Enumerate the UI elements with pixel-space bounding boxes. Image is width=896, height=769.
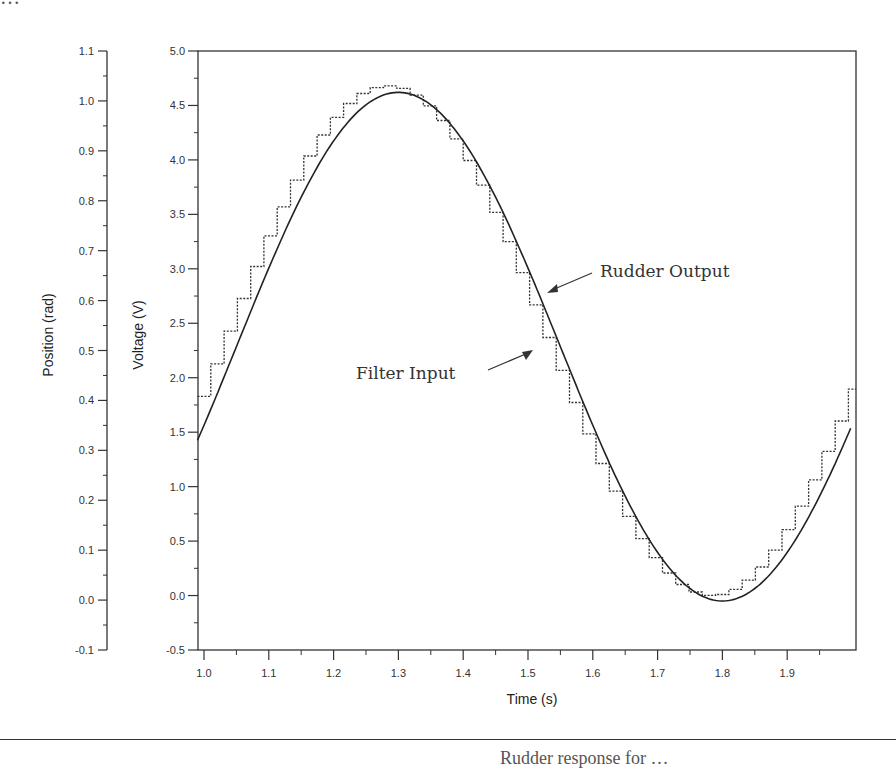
voltage-tick-label: 4.5: [170, 99, 185, 111]
time-tick-label: 1.7: [650, 667, 665, 679]
filter-input-annotation: Filter Input: [356, 350, 533, 383]
position-tick-label: 1.1: [79, 45, 94, 57]
voltage-axis: -0.50.00.51.01.52.02.53.03.54.04.55.0: [166, 45, 198, 656]
position-tick-label: 0.5: [79, 345, 94, 357]
time-axis-title: Time (s): [507, 691, 558, 707]
time-tick-label: 1.5: [520, 667, 535, 679]
voltage-tick-label: 1.0: [170, 481, 185, 493]
position-axis-title: Position (rad): [40, 293, 56, 376]
position-axis: -0.10.00.10.20.30.40.50.60.70.80.91.01.1: [75, 45, 107, 656]
position-tick-label: 1.0: [79, 95, 94, 107]
position-tick-label: -0.1: [75, 644, 94, 656]
position-tick-label: 0.1: [79, 544, 94, 556]
voltage-tick-label: 0.0: [170, 590, 185, 602]
figure-caption-fragment: Rudder response for …: [500, 748, 668, 769]
time-axis: 1.01.11.21.31.41.51.61.71.81.9: [196, 650, 819, 679]
voltage-tick-label: 0.5: [170, 535, 185, 547]
time-tick-label: 1.0: [196, 667, 211, 679]
rudder-output-series: [198, 92, 851, 601]
voltage-tick-label: 3.0: [170, 263, 185, 275]
caption-divider: [0, 739, 896, 740]
voltage-tick-label: 4.0: [170, 154, 185, 166]
time-tick-label: 1.8: [715, 667, 730, 679]
position-tick-label: 0.8: [79, 195, 94, 207]
position-tick-label: 0.2: [79, 494, 94, 506]
arrowhead-icon: [522, 350, 533, 360]
position-tick-label: 0.0: [79, 594, 94, 606]
voltage-tick-label: 5.0: [170, 45, 185, 57]
arrowhead-icon: [547, 284, 558, 293]
time-tick-label: 1.9: [780, 667, 795, 679]
time-tick-label: 1.2: [326, 667, 341, 679]
filter-input-series: [198, 86, 857, 596]
time-tick-label: 1.3: [391, 667, 406, 679]
voltage-tick-label: 3.5: [170, 208, 185, 220]
position-tick-label: 0.7: [79, 245, 94, 257]
voltage-time-chart: -0.10.00.10.20.30.40.50.60.70.80.91.01.1…: [0, 0, 896, 735]
voltage-tick-label: 1.5: [170, 426, 185, 438]
filter-input-label: Filter Input: [356, 363, 456, 383]
voltage-axis-title: Voltage (V): [130, 300, 146, 369]
position-tick-label: 0.4: [79, 394, 94, 406]
time-tick-label: 1.1: [261, 667, 276, 679]
plot-frame: [198, 51, 856, 650]
position-tick-label: 0.3: [79, 444, 94, 456]
voltage-tick-label: 2.5: [170, 317, 185, 329]
rudder-output-annotation: Rudder Output: [547, 261, 730, 293]
time-tick-label: 1.4: [456, 667, 471, 679]
rudder-output-label: Rudder Output: [600, 261, 730, 281]
position-tick-label: 0.9: [79, 145, 94, 157]
voltage-tick-label: -0.5: [166, 644, 185, 656]
voltage-tick-label: 2.0: [170, 372, 185, 384]
time-tick-label: 1.6: [585, 667, 600, 679]
position-tick-label: 0.6: [79, 295, 94, 307]
